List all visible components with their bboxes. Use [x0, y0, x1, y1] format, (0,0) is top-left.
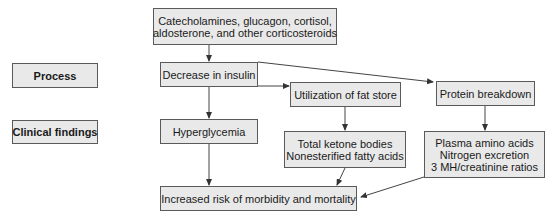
process-label-box: Process	[12, 63, 98, 88]
protein-breakdown-node: Protein breakdown	[436, 81, 535, 106]
plasma-line-2: Nitrogen excretion	[431, 149, 538, 161]
hyperglycemia-node: Hyperglycemia	[160, 119, 258, 144]
hyperglycemia-text: Hyperglycemia	[173, 126, 246, 138]
ketone-node: Total ketone bodies Nonesterified fatty …	[284, 131, 406, 168]
fat-store-text: Utilization of fat store	[294, 89, 397, 101]
clinical-findings-label-box: Clinical findings	[12, 120, 98, 144]
plasma-line-3: 3 MH/creatinine ratios	[431, 161, 538, 173]
outcome-text: Increased risk of morbidity and mortalit…	[161, 193, 355, 205]
ketone-line-2: Nonesterified fatty acids	[286, 150, 403, 162]
plasma-line-1: Plasma amino acids	[431, 137, 538, 149]
arrow-plasma-to-outcome	[361, 177, 424, 197]
decrease-insulin-node: Decrease in insulin	[160, 62, 258, 87]
arrow-ketone-to-outcome	[337, 168, 345, 185]
hormones-line-1: Catecholamines, glucagon, cortisol,	[153, 15, 337, 27]
hormones-node: Catecholamines, glucagon, cortisol, aldo…	[153, 8, 337, 45]
fat-store-node: Utilization of fat store	[290, 82, 401, 107]
ketone-line-1: Total ketone bodies	[286, 138, 403, 150]
clinical-findings-label: Clinical findings	[13, 126, 98, 138]
outcome-node: Increased risk of morbidity and mortalit…	[160, 186, 357, 211]
plasma-node: Plasma amino acids Nitrogen excretion 3 …	[424, 131, 545, 178]
arrow-insulin-to-protein	[258, 62, 433, 82]
process-label: Process	[34, 70, 77, 82]
protein-breakdown-text: Protein breakdown	[440, 88, 532, 100]
decrease-insulin-text: Decrease in insulin	[163, 69, 256, 81]
hormones-line-2: aldosterone, and other corticosteroids	[153, 27, 337, 39]
